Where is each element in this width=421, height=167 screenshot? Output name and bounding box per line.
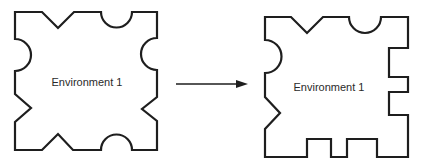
target-environment: Environment 1	[265, 17, 408, 157]
target-label: Environment 1	[294, 81, 365, 93]
source-environment: Environment 1	[15, 12, 157, 150]
diagram-canvas: Environment 1 Environment 1	[0, 0, 421, 167]
arrow-head-icon	[236, 80, 248, 88]
transform-arrow	[176, 80, 248, 88]
source-label: Environment 1	[52, 76, 123, 88]
